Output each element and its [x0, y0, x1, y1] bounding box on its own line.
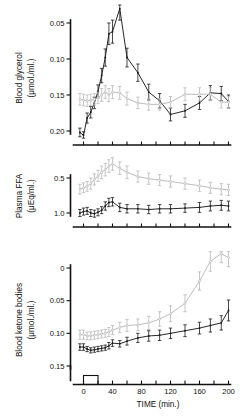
- data-point: [148, 178, 150, 180]
- data-point: [148, 103, 150, 105]
- data-point: [170, 101, 172, 103]
- data-point: [170, 113, 172, 115]
- data-point: [101, 209, 103, 211]
- data-point: [126, 171, 128, 173]
- series-control: [78, 86, 230, 110]
- data-point: [83, 211, 85, 213]
- data-point: [159, 103, 161, 105]
- series-exercise: [78, 198, 230, 218]
- data-point: [108, 202, 110, 204]
- y-tick-label: 0.10: [50, 329, 65, 338]
- x-tick-label: 160: [193, 387, 206, 396]
- data-point: [83, 99, 85, 101]
- y-tick-label: 1.0: [54, 209, 65, 218]
- data-point: [104, 57, 106, 59]
- data-point: [108, 345, 110, 347]
- data-point: [79, 131, 81, 133]
- data-point: [199, 185, 201, 187]
- data-point: [184, 183, 186, 185]
- period-marker-box: [84, 376, 99, 385]
- panel-plasma-ffa: 0.51.0Plasma FFA(μEq/ml.): [15, 158, 231, 227]
- data-point: [112, 91, 114, 93]
- data-point: [170, 181, 172, 183]
- data-point: [119, 343, 121, 345]
- data-point: [90, 183, 92, 185]
- data-point: [79, 346, 81, 348]
- y-tick-label: 0: [60, 264, 64, 273]
- data-point: [119, 8, 121, 10]
- data-point: [220, 253, 222, 255]
- data-point: [209, 260, 211, 262]
- data-point: [101, 75, 103, 77]
- three-panel-line-chart: 0.050.100.150.20Blood glycerol(μmol./ml.…: [0, 0, 240, 420]
- data-point: [170, 332, 172, 334]
- data-point: [83, 134, 85, 136]
- data-point: [126, 98, 128, 100]
- data-point: [220, 322, 222, 324]
- data-point: [209, 325, 211, 327]
- y-axis-title-line2: (μmol./ml.): [27, 58, 36, 97]
- data-point: [79, 188, 81, 190]
- data-point: [137, 176, 139, 178]
- series-exercise: [78, 5, 230, 138]
- y-axis-title-line2: (μEq/ml.): [27, 179, 36, 213]
- data-point: [104, 347, 106, 349]
- panel-blood-ketone-bodies: 00.050.100.15Blood ketone bodies(μmol./m…: [15, 252, 230, 371]
- data-point: [159, 334, 161, 336]
- data-point: [220, 93, 222, 95]
- data-point: [228, 189, 230, 191]
- data-point: [126, 208, 128, 210]
- data-point: [86, 100, 88, 102]
- data-point: [90, 335, 92, 337]
- data-point: [104, 332, 106, 334]
- data-point: [108, 165, 110, 167]
- data-point: [79, 212, 81, 214]
- data-point: [126, 324, 128, 326]
- data-point: [108, 33, 110, 35]
- data-point: [93, 334, 95, 336]
- data-point: [126, 57, 128, 59]
- data-point: [148, 91, 150, 93]
- y-axis-title-line1: Blood ketone bodies: [15, 283, 24, 357]
- data-point: [83, 334, 85, 336]
- data-point: [79, 98, 81, 100]
- data-point: [148, 209, 150, 211]
- data-point: [137, 102, 139, 104]
- data-point: [104, 205, 106, 207]
- data-point: [112, 329, 114, 331]
- data-point: [228, 101, 230, 103]
- data-point: [97, 175, 99, 177]
- x-tick-label: 120: [164, 387, 177, 396]
- x-tick-label: 80: [137, 387, 145, 396]
- x-tick-label: 200: [222, 387, 235, 396]
- data-point: [220, 188, 222, 190]
- data-point: [86, 185, 88, 187]
- data-point: [93, 349, 95, 351]
- data-point: [220, 101, 222, 103]
- data-point: [90, 111, 92, 113]
- data-point: [199, 327, 201, 329]
- data-point: [209, 187, 211, 189]
- series-line: [80, 202, 229, 214]
- y-tick-label: 0.20: [50, 127, 65, 136]
- data-point: [228, 310, 230, 312]
- data-point: [108, 331, 110, 333]
- data-point: [209, 205, 211, 207]
- data-point: [83, 187, 85, 189]
- data-point: [86, 348, 88, 350]
- data-point: [228, 257, 230, 259]
- y-axis-title-line2: (μmol./ml.): [27, 300, 36, 339]
- series-control: [78, 158, 230, 196]
- data-point: [119, 167, 121, 169]
- data-point: [104, 169, 106, 171]
- data-point: [220, 204, 222, 206]
- data-point: [101, 171, 103, 173]
- data-point: [137, 337, 139, 339]
- data-point: [184, 110, 186, 112]
- x-tick-label: 0: [81, 387, 85, 396]
- data-point: [90, 212, 92, 214]
- data-point: [90, 99, 92, 101]
- data-point: [93, 178, 95, 180]
- data-point: [148, 335, 150, 337]
- data-point: [83, 346, 85, 348]
